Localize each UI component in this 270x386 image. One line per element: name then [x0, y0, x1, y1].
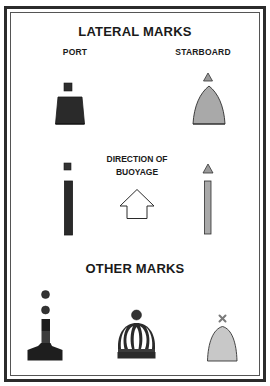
port-pillar-icon [64, 163, 73, 235]
isolated-danger-mark-icon [28, 291, 63, 361]
port-can-buoy-icon [56, 83, 85, 124]
safe-water-mark-icon [118, 310, 156, 359]
buoyage-diagram [0, 0, 270, 386]
special-mark-icon [208, 316, 238, 362]
direction-arrow-icon [120, 190, 154, 219]
starboard-conical-buoy-icon [193, 73, 225, 124]
starboard-pillar-icon [203, 164, 213, 234]
